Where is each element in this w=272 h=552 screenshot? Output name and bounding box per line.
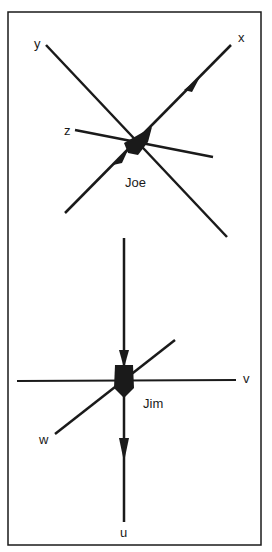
w-axis-label: w <box>38 432 49 447</box>
u-axis-label: u <box>120 525 127 540</box>
joe-label: Joe <box>125 175 146 190</box>
jim-body-icon <box>114 365 134 398</box>
jim-label: Jim <box>143 396 163 411</box>
x-axis <box>65 45 231 213</box>
incoming-arrowhead <box>113 150 128 165</box>
coordinate-frames-diagram: y x z Joe v w u Jim <box>0 0 272 552</box>
x-axis-label: x <box>238 30 245 45</box>
z-axis-label: z <box>64 123 71 138</box>
x-arrowhead <box>184 77 200 92</box>
v-axis-label: v <box>243 371 250 386</box>
jim-frame: v w u Jim <box>17 238 250 540</box>
y-axis-label: y <box>34 36 41 51</box>
frame-border <box>8 12 261 545</box>
joe-frame: y x z Joe <box>34 30 245 237</box>
u-arrowhead <box>119 438 129 462</box>
